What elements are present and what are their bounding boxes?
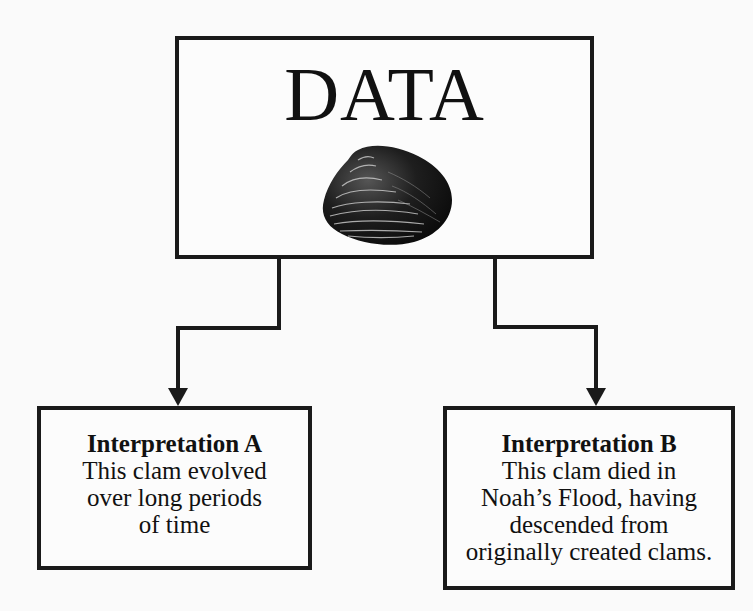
interpretation-a-line: over long periods <box>41 484 308 511</box>
arrow-to-interpretation-a <box>178 258 279 392</box>
arrow-to-interpretation-b <box>495 258 596 392</box>
interpretation-b-line: originally created clams. <box>447 538 731 565</box>
interpretation-a-line: of time <box>41 511 308 538</box>
data-title: DATA <box>179 56 590 132</box>
arrowhead-b-icon <box>586 388 606 406</box>
interpretation-b-title: Interpretation B <box>447 430 731 457</box>
interpretation-a-line: This clam evolved <box>41 457 308 484</box>
arrowhead-a-icon <box>168 388 188 406</box>
data-box: DATA <box>175 36 594 259</box>
interpretation-b-line: Noah’s Flood, having <box>447 484 731 511</box>
clam-shell-icon <box>318 142 458 246</box>
interpretation-b-line: descended from <box>447 511 731 538</box>
interpretation-b-line: This clam died in <box>447 457 731 484</box>
interpretation-b-box: Interpretation B This clam died in Noah’… <box>443 406 735 590</box>
interpretation-a-box: Interpretation A This clam evolved over … <box>37 406 312 570</box>
interpretation-a-title: Interpretation A <box>41 430 308 457</box>
